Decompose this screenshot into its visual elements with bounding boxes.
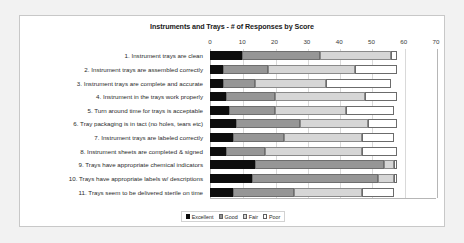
bar-segment-good[interactable]: [226, 92, 274, 101]
bar-segment-fair[interactable]: [275, 106, 346, 115]
chart-row: 6. Tray packaging is in tact (no holes, …: [20, 117, 446, 131]
legend-item-excellent[interactable]: Excellent: [186, 214, 214, 220]
bar-segment-fair[interactable]: [384, 160, 394, 169]
bar-segment-poor[interactable]: [394, 174, 397, 183]
bar-segment-excellent[interactable]: [210, 119, 236, 128]
bar-segment-good[interactable]: [226, 147, 265, 156]
bar-segment-excellent[interactable]: [210, 133, 233, 142]
bar-segment-fair[interactable]: [268, 65, 355, 74]
category-label: 8. Instrument sheets are completed & sig…: [20, 144, 206, 158]
chart-row: 11. Trays seem to be delivered sterile o…: [20, 185, 446, 199]
chart-row: 9. Trays have appropriate chemical indic…: [20, 158, 446, 172]
stacked-bar[interactable]: [210, 79, 391, 88]
bar-segment-excellent[interactable]: [210, 106, 229, 115]
bar-segment-fair[interactable]: [300, 119, 368, 128]
plot-wrapper: 010203040506070 1. Instrument trays are …: [20, 38, 446, 210]
stacked-bar[interactable]: [210, 119, 397, 128]
bar-segment-fair[interactable]: [378, 174, 394, 183]
stacked-bar[interactable]: [210, 92, 397, 101]
bar-segment-poor[interactable]: [326, 79, 391, 88]
legend-swatch-icon: [263, 214, 268, 219]
bar-segment-excellent[interactable]: [210, 92, 226, 101]
bar-segment-poor[interactable]: [362, 188, 394, 197]
bar-segment-good[interactable]: [223, 65, 268, 74]
bar-segment-excellent[interactable]: [210, 174, 252, 183]
stacked-bar[interactable]: [210, 133, 394, 142]
bar-segment-excellent[interactable]: [210, 65, 223, 74]
x-axis-tick-labels: 010203040506070: [210, 38, 436, 49]
bar-segment-excellent[interactable]: [210, 147, 226, 156]
legend-swatch-icon: [219, 214, 224, 219]
legend-item-good[interactable]: Good: [219, 214, 238, 220]
bar-segment-fair[interactable]: [294, 188, 362, 197]
chart-row: 10. Trays have appropriate labels w/ des…: [20, 172, 446, 186]
chart-title: Instruments and Trays - # of Responses b…: [20, 22, 444, 31]
x-axis-tick-40: 40: [336, 38, 343, 45]
chart-frame: Instruments and Trays - # of Responses b…: [19, 15, 445, 227]
x-axis-tick-60: 60: [400, 38, 407, 45]
category-label: 3. Instrument trays are complete and acc…: [20, 76, 206, 90]
stacked-bar[interactable]: [210, 147, 397, 156]
bar-segment-good[interactable]: [223, 79, 255, 88]
bar-segment-good[interactable]: [229, 106, 274, 115]
x-axis-tick-30: 30: [303, 38, 310, 45]
bar-rows: 1. Instrument trays are clean2. Instrume…: [20, 49, 446, 199]
category-label: 5. Turn around time for trays is accepta…: [20, 104, 206, 118]
chart-row: 4. Instrument in the trays work properly: [20, 90, 446, 104]
stacked-bar[interactable]: [210, 51, 397, 60]
bar-segment-poor[interactable]: [355, 65, 397, 74]
bar-segment-poor[interactable]: [365, 92, 397, 101]
category-label: 2. Instrument trays are assembled correc…: [20, 63, 206, 77]
chart-row: 5. Turn around time for trays is accepta…: [20, 104, 446, 118]
bar-segment-poor[interactable]: [391, 51, 397, 60]
chart-row: 8. Instrument sheets are completed & sig…: [20, 144, 446, 158]
category-label: 11. Trays seem to be delivered sterile o…: [20, 185, 206, 199]
x-axis-tick-70: 70: [433, 38, 440, 45]
bar-segment-good[interactable]: [242, 51, 319, 60]
bar-segment-fair[interactable]: [320, 51, 391, 60]
bar-segment-excellent[interactable]: [210, 160, 255, 169]
bar-segment-excellent[interactable]: [210, 51, 242, 60]
chart-row: 7. Instrument trays are labeled correctl…: [20, 131, 446, 145]
legend-item-poor[interactable]: Poor: [263, 214, 280, 220]
category-label: 10. Trays have appropriate labels w/ des…: [20, 172, 206, 186]
bar-segment-fair[interactable]: [275, 92, 365, 101]
bar-segment-excellent[interactable]: [210, 79, 223, 88]
x-axis-tick-0: 0: [208, 38, 211, 45]
legend-label: Fair: [249, 214, 258, 220]
bar-segment-poor[interactable]: [362, 147, 398, 156]
stacked-bar[interactable]: [210, 160, 397, 169]
bar-segment-good[interactable]: [255, 160, 384, 169]
bar-segment-good[interactable]: [236, 119, 301, 128]
bar-segment-fair[interactable]: [265, 147, 362, 156]
stacked-bar[interactable]: [210, 65, 397, 74]
legend-label: Good: [225, 214, 238, 220]
bar-segment-poor[interactable]: [346, 106, 394, 115]
bar-segment-good[interactable]: [233, 133, 285, 142]
category-label: 6. Tray packaging is in tact (no holes, …: [20, 117, 206, 131]
bar-segment-poor[interactable]: [368, 119, 397, 128]
bar-segment-poor[interactable]: [394, 160, 397, 169]
category-label: 4. Instrument in the trays work properly: [20, 90, 206, 104]
legend-label: Poor: [269, 214, 280, 220]
bar-segment-fair[interactable]: [284, 133, 361, 142]
stacked-bar[interactable]: [210, 106, 394, 115]
legend-item-fair[interactable]: Fair: [243, 214, 258, 220]
chart-page: Instruments and Trays - # of Responses b…: [0, 0, 464, 243]
chart-row: 2. Instrument trays are assembled correc…: [20, 63, 446, 77]
bar-segment-poor[interactable]: [362, 133, 394, 142]
bar-segment-good[interactable]: [233, 188, 294, 197]
category-label: 1. Instrument trays are clean: [20, 49, 206, 63]
chart-legend: ExcellentGoodFairPoor: [20, 211, 446, 222]
bar-segment-good[interactable]: [252, 174, 378, 183]
bar-segment-fair[interactable]: [255, 79, 326, 88]
x-axis-tick-20: 20: [271, 38, 278, 45]
legend-swatch-icon: [243, 214, 248, 219]
x-axis-tick-10: 10: [239, 38, 246, 45]
stacked-bar[interactable]: [210, 188, 394, 197]
chart-row: 1. Instrument trays are clean: [20, 49, 446, 63]
bar-segment-excellent[interactable]: [210, 188, 233, 197]
x-axis-tick-50: 50: [368, 38, 375, 45]
legend-swatch-icon: [186, 214, 191, 219]
stacked-bar[interactable]: [210, 174, 397, 183]
